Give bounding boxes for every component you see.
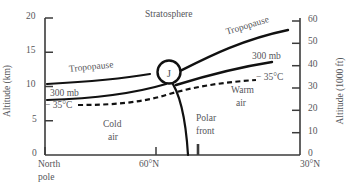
bottom-label-30n: 30°N [300, 159, 320, 169]
right-tick-label-50: 50 [308, 36, 318, 46]
warm-air-label-line2: air [236, 98, 246, 108]
cold-air-label-line2: air [108, 132, 118, 142]
right-tick-label-60: 60 [308, 14, 318, 24]
left-tick-label-0: 0 [32, 148, 37, 158]
jet-stream-symbol-text: J [167, 67, 172, 79]
right-tick-label-40: 40 [308, 59, 318, 69]
temp-minus35-left-label: − 35°C [45, 100, 72, 110]
left-tick-label-20: 20 [26, 11, 36, 21]
right-tick-label-20: 20 [308, 103, 318, 113]
mb-300-right-label: 300 mb [252, 51, 281, 61]
cold-air-label-line1: Cold [103, 119, 121, 129]
polar-front-label-line1: Polar [196, 113, 216, 123]
mb-300-left-label: 300 mb [50, 88, 79, 98]
left-tick-label-15: 15 [26, 45, 36, 55]
left-axis-title: Altitude (km) [2, 65, 12, 117]
left-tick-label-5: 5 [32, 114, 37, 124]
right-tick-label-30: 30 [308, 81, 318, 91]
polar-front-curve [169, 78, 188, 155]
stratosphere-label: Stratosphere [145, 9, 193, 19]
right-tick-label-0: 0 [308, 148, 313, 158]
polar-tropopause-curve [47, 74, 150, 84]
right-axis-title: Altitude (1000 ft) [335, 57, 345, 124]
left-tick-label-10: 10 [26, 79, 36, 89]
bottom-label-north-pole-line2: pole [38, 172, 54, 182]
temp-minus35-right-label: − 35°C [256, 72, 283, 82]
warm-air-label-line1: Warm [231, 85, 254, 95]
polar-front-label-line2: front [196, 126, 214, 136]
right-tick-label-10: 10 [308, 126, 318, 136]
bottom-label-north-pole-line1: North [38, 159, 60, 169]
bottom-label-60n: 60°N [139, 159, 159, 169]
